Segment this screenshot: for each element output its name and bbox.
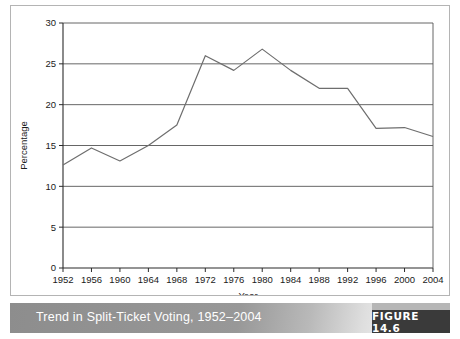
x-tick-label: 1992 — [337, 274, 358, 285]
x-tick-label: 1968 — [166, 274, 187, 285]
x-tick-label: 1984 — [280, 274, 301, 285]
x-tick-label: 1980 — [252, 274, 273, 285]
y-tick-label: 15 — [45, 140, 56, 151]
x-tick-label: 1952 — [52, 274, 73, 285]
y-tick-label: 20 — [45, 99, 56, 110]
x-tick-label: 1988 — [309, 274, 330, 285]
data-line-split-ticket-voting — [63, 49, 433, 165]
line-chart: 0510152025301952195619601964196819721976… — [11, 6, 449, 295]
y-tick-label: 0 — [51, 262, 56, 273]
x-tick-label: 1972 — [195, 274, 216, 285]
figure-caption-text: Trend in Split-Ticket Voting, 1952–2004 — [36, 310, 262, 324]
y-tick-label: 25 — [45, 58, 56, 69]
y-tick-label: 10 — [45, 181, 56, 192]
figure-number-label: FIGURE 14.6 — [372, 310, 450, 333]
x-tick-label: 1976 — [223, 274, 244, 285]
y-tick-label: 30 — [45, 17, 56, 28]
x-axis-title: Year — [238, 290, 257, 295]
figure-number-badge: FIGURE 14.6 — [372, 303, 450, 333]
chart-panel: 0510152025301952195619601964196819721976… — [10, 5, 450, 296]
x-tick-label: 2004 — [422, 274, 443, 285]
figure-container: 0510152025301952195619601964196819721976… — [0, 0, 460, 339]
x-tick-label: 1996 — [366, 274, 387, 285]
x-tick-label: 2000 — [394, 274, 415, 285]
x-tick-label: 1964 — [138, 274, 159, 285]
y-tick-label: 5 — [51, 222, 56, 233]
x-tick-label: 1960 — [109, 274, 130, 285]
y-axis-title: Percentage — [18, 121, 29, 170]
x-tick-label: 1956 — [81, 274, 102, 285]
